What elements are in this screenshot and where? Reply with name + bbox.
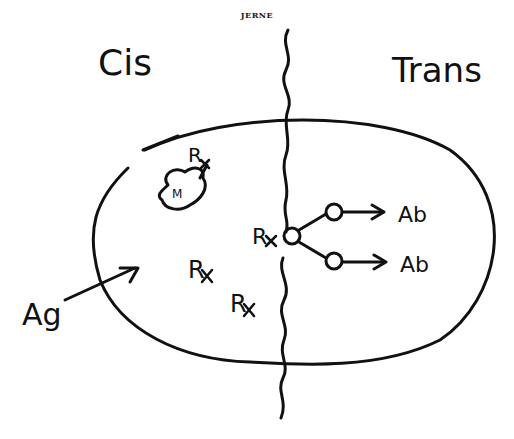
label-m: M [172, 187, 182, 201]
label-trans: Trans [391, 50, 482, 90]
label-antibody-1: Ab [398, 202, 427, 227]
node-upper [326, 204, 342, 220]
branch-upper [299, 214, 326, 230]
antigen-arrow [65, 268, 135, 300]
branch-lower [299, 242, 326, 258]
label-antibody-2: Ab [400, 252, 429, 277]
wavy-divider-bottom [281, 258, 287, 418]
label-receptor-top: R [188, 143, 202, 167]
cell-membrane [93, 120, 494, 364]
membrane-gap-stroke [143, 136, 178, 150]
label-cis: Cis [98, 42, 152, 83]
rx-mark-center [266, 236, 276, 246]
node-lower [326, 253, 342, 269]
diagram-canvas: Cis Trans Ag Ab Ab R R R R M [0, 0, 514, 439]
wavy-divider-top [284, 30, 290, 232]
label-antigen: Ag [22, 297, 62, 332]
